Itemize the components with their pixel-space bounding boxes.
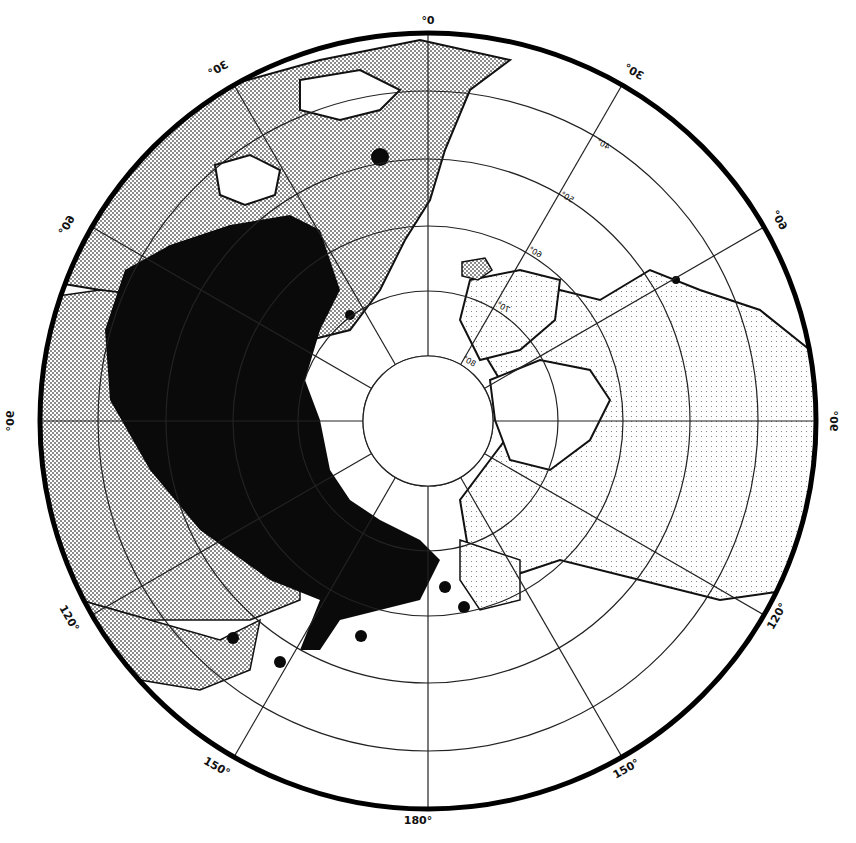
lon-label-60w: 60° — [56, 213, 78, 238]
occurrence-dot — [274, 656, 286, 668]
lon-label-180: 180° — [404, 814, 432, 827]
lon-label-0: 0° — [421, 14, 434, 27]
occurrence-dot — [439, 581, 451, 593]
lon-label-150w: 150° — [201, 754, 232, 779]
polar-map: 0° 30° 30° 60° 60° 90° 90° 120° 120° 150… — [0, 0, 856, 843]
lon-label-120w: 120° — [56, 603, 81, 634]
lon-label-30e: 30° — [621, 61, 646, 83]
lon-label-90w: 90° — [4, 411, 17, 432]
occurrence-dot — [227, 632, 239, 644]
occurrence-dot — [355, 630, 367, 642]
lon-label-90e: 90° — [827, 411, 840, 432]
lat-label-40: 40° — [595, 137, 612, 152]
lat-label-50: 50° — [559, 190, 576, 205]
north-pole-circle — [363, 356, 493, 486]
lon-label-30w: 30° — [206, 58, 231, 80]
lon-label-60e: 60° — [768, 208, 790, 233]
